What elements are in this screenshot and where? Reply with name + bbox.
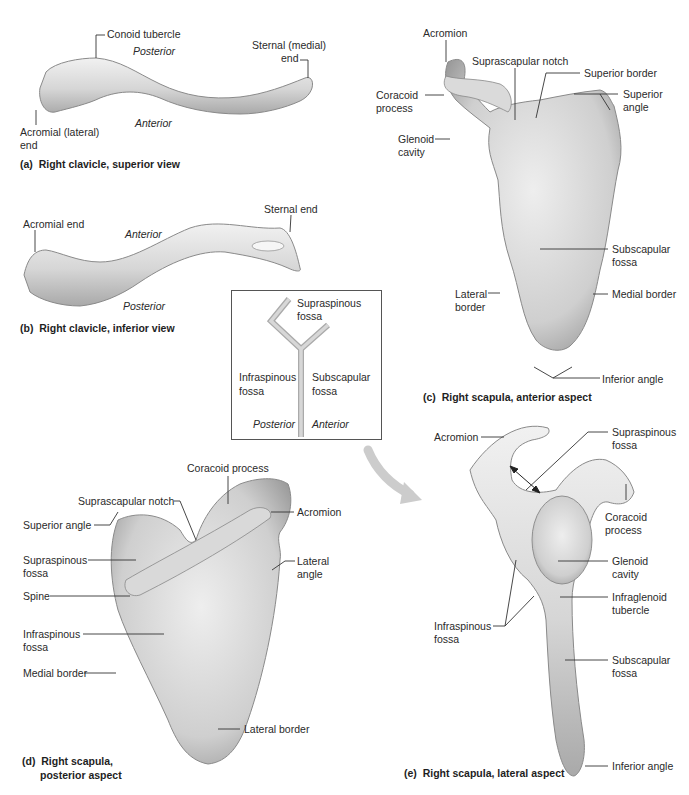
glenoid-cavity-label-e: Glenoid [612, 555, 648, 568]
inset-supraspinous-label: Supraspinous [297, 297, 361, 310]
superior-border-label-c: Superior border [584, 67, 657, 80]
clavicle-superior-bone [40, 58, 313, 114]
inset-infraspinous-label: Infraspinous [239, 371, 296, 384]
infraspinous-fossa-label-d-2: fossa [23, 641, 48, 654]
inferior-angle-label-e: Inferior angle [612, 760, 673, 773]
infraspinous-fossa-label-e-2: fossa [434, 633, 459, 646]
anterior-label-b: Anterior [125, 228, 162, 241]
supraspinous-fossa-label-d-2: fossa [23, 567, 48, 580]
coracoid-process-label-c-2: process [376, 102, 413, 115]
infraglenoid-tubercle-label-e-2: tubercle [612, 604, 649, 617]
infraspinous-fossa-label-e: Infraspinous [434, 620, 491, 633]
inferior-angle-label-c: Inferior angle [602, 373, 663, 386]
acromion-label-e: Acromion [434, 431, 478, 444]
sternal-end-label-a: Sternal (medial) [252, 39, 326, 52]
glenoid-cavity-label-c-2: cavity [398, 146, 425, 159]
inset-schematic-box: Supraspinous fossa Infraspinous fossa Su… [231, 290, 382, 440]
conoid-tubercle-label: Conoid tubercle [107, 28, 181, 41]
inset-anterior-label: Anterior [312, 418, 349, 431]
coracoid-process-label-d: Coracoid process [187, 462, 269, 475]
supraspinous-fossa-label-e-2: fossa [612, 439, 637, 452]
superior-angle-label-c: Superior [623, 88, 663, 101]
superior-angle-label-d: Superior angle [23, 519, 91, 532]
suprascapular-notch-label-d: Suprascapular notch [78, 495, 174, 508]
inset-posterior-label: Posterior [253, 418, 295, 431]
inset-subscapular-label-2: fossa [312, 385, 337, 398]
acromion-label-c: Acromion [423, 27, 467, 40]
supraspinous-fossa-label-e: Supraspinous [612, 426, 676, 439]
caption-c: (c) Right scapula, anterior aspect [423, 391, 592, 404]
caption-b: (b) Right clavicle, inferior view [20, 322, 175, 335]
sternal-end-label-a-2: end [281, 52, 299, 65]
acromial-end-label-b: Acromial end [23, 218, 84, 231]
subscapular-fossa-label-c: Subscapular [612, 243, 670, 256]
supraspinous-fossa-label-d: Supraspinous [23, 554, 87, 567]
caption-d: (d) Right scapula, [22, 755, 113, 768]
lateral-border-label-c-2: border [455, 301, 485, 314]
inset-supraspinous-label-2: fossa [297, 310, 322, 323]
acromial-end-label-a: Acromial (lateral) [20, 126, 99, 139]
posterior-label-a: Posterior [133, 45, 175, 58]
caption-e: (e) Right scapula, lateral aspect [404, 767, 564, 780]
glenoid-cavity-label-e-2: cavity [612, 568, 639, 581]
spine-label-d: Spine [23, 590, 50, 603]
inset-subscapular-label: Subscapular [312, 371, 370, 384]
coracoid-process-label-e-2: process [605, 524, 642, 537]
anterior-label-a: Anterior [135, 117, 172, 130]
caption-a: (a) Right clavicle, superior view [20, 158, 180, 171]
subscapular-fossa-label-e-2: fossa [612, 667, 637, 680]
superior-angle-label-c-2: angle [623, 101, 649, 114]
scapula-posterior-bone [111, 479, 291, 764]
subscapular-fossa-label-e: Subscapular [612, 654, 670, 667]
coracoid-process-label-e: Coracoid [605, 511, 647, 524]
acromion-label-d: Acromion [297, 506, 341, 519]
coracoid-process-label-c: Coracoid [376, 89, 418, 102]
infraglenoid-tubercle-label-e: Infraglenoid [612, 591, 667, 604]
lateral-border-label-d: Lateral border [244, 723, 309, 736]
medial-border-label-d: Medial border [23, 667, 87, 680]
medial-border-label-c: Medial border [612, 288, 676, 301]
subscapular-fossa-label-c-2: fossa [612, 256, 637, 269]
scapula-lateral-bone [470, 426, 634, 776]
suprascapular-notch-label-c: Suprascapular notch [472, 55, 568, 68]
sternal-end-label-b: Sternal end [264, 203, 318, 216]
caption-d-2: posterior aspect [40, 769, 122, 782]
lateral-angle-label-d: Lateral [297, 555, 329, 568]
lateral-border-label-c: Lateral [455, 288, 487, 301]
inset-infraspinous-label-2: fossa [239, 385, 264, 398]
glenoid-cavity-label-c: Glenoid [398, 133, 434, 146]
infraspinous-fossa-label-d: Infraspinous [23, 628, 80, 641]
acromial-end-label-a-2: end [20, 139, 38, 152]
posterior-label-b: Posterior [123, 300, 165, 313]
lateral-angle-label-d-2: angle [297, 568, 323, 581]
